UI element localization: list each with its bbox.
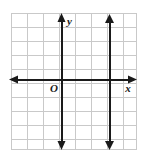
graph-canvas: O y x (0, 0, 141, 159)
x-axis-label: x (124, 82, 131, 94)
coordinate-plane-figure: O y x (0, 0, 141, 159)
origin-label: O (50, 82, 58, 94)
plot-background (11, 13, 137, 150)
y-axis-label: y (65, 15, 72, 27)
